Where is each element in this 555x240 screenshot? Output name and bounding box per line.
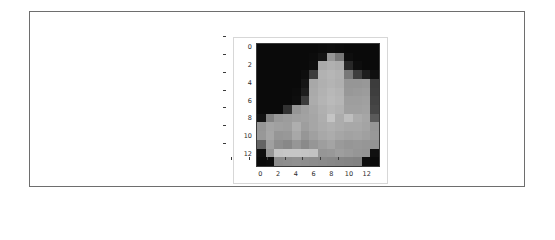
pixel-cell [257, 88, 266, 97]
x-tick-label: 12 [363, 171, 371, 178]
pixel-cell [362, 157, 371, 166]
pixel-cell [353, 79, 362, 88]
pixel-cell [335, 44, 344, 53]
pixel-cell [362, 53, 371, 62]
pixel-cell [274, 140, 283, 149]
pixel-cell [283, 44, 292, 53]
pixel-cell [362, 114, 371, 123]
pixel-cell [274, 61, 283, 70]
pixel-cell [327, 53, 336, 62]
pixel-cell [309, 79, 318, 88]
pixel-cell [335, 53, 344, 62]
pixel-cell [370, 114, 379, 123]
y-tick-label: 4 [248, 80, 252, 87]
pixel-cell [353, 61, 362, 70]
pixel-cell [370, 79, 379, 88]
pixel-cell [362, 131, 371, 140]
pixel-cell [309, 149, 318, 158]
pixel-cell [362, 61, 371, 70]
pixel-cell [274, 114, 283, 123]
x-tick-label: 2 [276, 171, 280, 178]
pixel-cell [344, 140, 353, 149]
pixel-cell [318, 88, 327, 97]
pixel-cell [318, 131, 327, 140]
pixel-cell [344, 157, 353, 166]
pixel-cell [318, 44, 327, 53]
pixel-cell [283, 96, 292, 105]
pixel-cell [266, 70, 275, 79]
pixel-cell [370, 70, 379, 79]
pixel-cell [257, 149, 266, 158]
y-tick-mark [223, 125, 226, 126]
x-tick-mark [267, 157, 268, 160]
pixel-cell [266, 44, 275, 53]
pixel-cell [344, 122, 353, 131]
pixel-cell [301, 122, 310, 131]
pixel-cell [292, 122, 301, 131]
pixel-cell [292, 96, 301, 105]
pixel-cell [257, 61, 266, 70]
pixel-cell [309, 122, 318, 131]
pixel-cell [335, 61, 344, 70]
y-tick-label: 8 [248, 115, 252, 122]
pixel-cell [257, 79, 266, 88]
x-tick-mark [338, 157, 339, 160]
pixel-cell [257, 140, 266, 149]
pixel-cell [370, 131, 379, 140]
pixel-cell [318, 61, 327, 70]
pixel-cell [266, 114, 275, 123]
pixel-cell [353, 131, 362, 140]
pixel-cell [318, 79, 327, 88]
pixel-cell [283, 70, 292, 79]
pixel-cell [301, 53, 310, 62]
pixel-cell [370, 122, 379, 131]
pixel-cell [362, 140, 371, 149]
pixel-cell [344, 79, 353, 88]
pixel-cell [318, 122, 327, 131]
pixel-cell [327, 70, 336, 79]
x-tick-mark [249, 157, 250, 160]
pixel-cell [309, 88, 318, 97]
pixel-cell [274, 79, 283, 88]
pixel-cell [309, 70, 318, 79]
pixel-cell [283, 61, 292, 70]
pixel-cell [301, 96, 310, 105]
pixel-cell [353, 88, 362, 97]
y-tick-label: 10 [244, 133, 252, 140]
pixel-cell [274, 44, 283, 53]
pixel-cell [274, 149, 283, 158]
y-tick-label: 6 [248, 97, 252, 104]
pixel-cell [292, 157, 301, 166]
y-tick-label: 12 [244, 150, 252, 157]
pixel-cell [274, 122, 283, 131]
pixel-cell [335, 114, 344, 123]
pixel-cell [283, 149, 292, 158]
pixel-cell [344, 61, 353, 70]
pixel-cell [327, 140, 336, 149]
pixel-cell [335, 140, 344, 149]
pixel-cell [301, 140, 310, 149]
pixel-cell [318, 140, 327, 149]
pixel-cell [327, 131, 336, 140]
pixel-cell [344, 131, 353, 140]
pixel-cell [257, 131, 266, 140]
pixel-cell [257, 53, 266, 62]
x-tick-label: 10 [345, 171, 353, 178]
pixel-cell [370, 105, 379, 114]
pixel-cell [327, 122, 336, 131]
pixel-cell [362, 149, 371, 158]
image-plot-axes[interactable] [256, 43, 380, 167]
pixel-cell [301, 70, 310, 79]
pixel-cell [266, 61, 275, 70]
pixel-cell [274, 96, 283, 105]
pixel-cell [301, 88, 310, 97]
pixel-cell [318, 105, 327, 114]
y-tick-mark [223, 72, 226, 73]
x-tick-mark [231, 157, 232, 160]
pixel-cell [362, 79, 371, 88]
pixel-cell [309, 61, 318, 70]
x-axis-tick-labels: 024681012 [256, 171, 380, 185]
pixel-cell [353, 105, 362, 114]
pixel-cell [327, 79, 336, 88]
pixel-cell [257, 96, 266, 105]
